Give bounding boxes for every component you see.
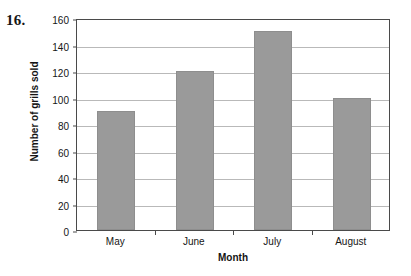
y-tick-label: 80	[58, 121, 69, 132]
x-axis-labels: MayJuneJulyAugust	[76, 236, 390, 252]
y-tick-label: 120	[52, 68, 69, 79]
y-tick-label: 20	[58, 200, 69, 211]
bar[interactable]	[176, 71, 214, 230]
bar-slot	[156, 20, 235, 230]
bar[interactable]	[333, 98, 371, 231]
y-tick-label: 140	[52, 41, 69, 52]
bar-slot	[234, 20, 313, 230]
y-tick-label: 40	[58, 174, 69, 185]
x-tick-mark	[312, 231, 313, 235]
plot-area: 020406080100120140160	[76, 19, 390, 231]
bar-slot	[313, 20, 392, 230]
bar[interactable]	[254, 31, 292, 230]
x-tick-label: August	[335, 236, 366, 247]
y-axis-title: Number of grills sold	[29, 17, 40, 207]
x-tick-mark	[233, 231, 234, 235]
bar[interactable]	[97, 111, 135, 230]
x-tick-label: May	[106, 236, 125, 247]
question-number: 16.	[6, 12, 25, 29]
x-tick-label: June	[183, 236, 205, 247]
x-tick-mark	[155, 231, 156, 235]
x-axis-title: Month	[76, 252, 390, 263]
y-tick-label: 0	[63, 227, 69, 238]
y-tick-label: 100	[52, 94, 69, 105]
bars-layer	[77, 20, 389, 230]
y-tick-label: 60	[58, 147, 69, 158]
y-tick-label: 160	[52, 15, 69, 26]
x-tick-label: July	[263, 236, 281, 247]
bar-chart-figure: 16. Number of grills sold 02040608010012…	[0, 0, 411, 276]
bar-slot	[77, 20, 156, 230]
